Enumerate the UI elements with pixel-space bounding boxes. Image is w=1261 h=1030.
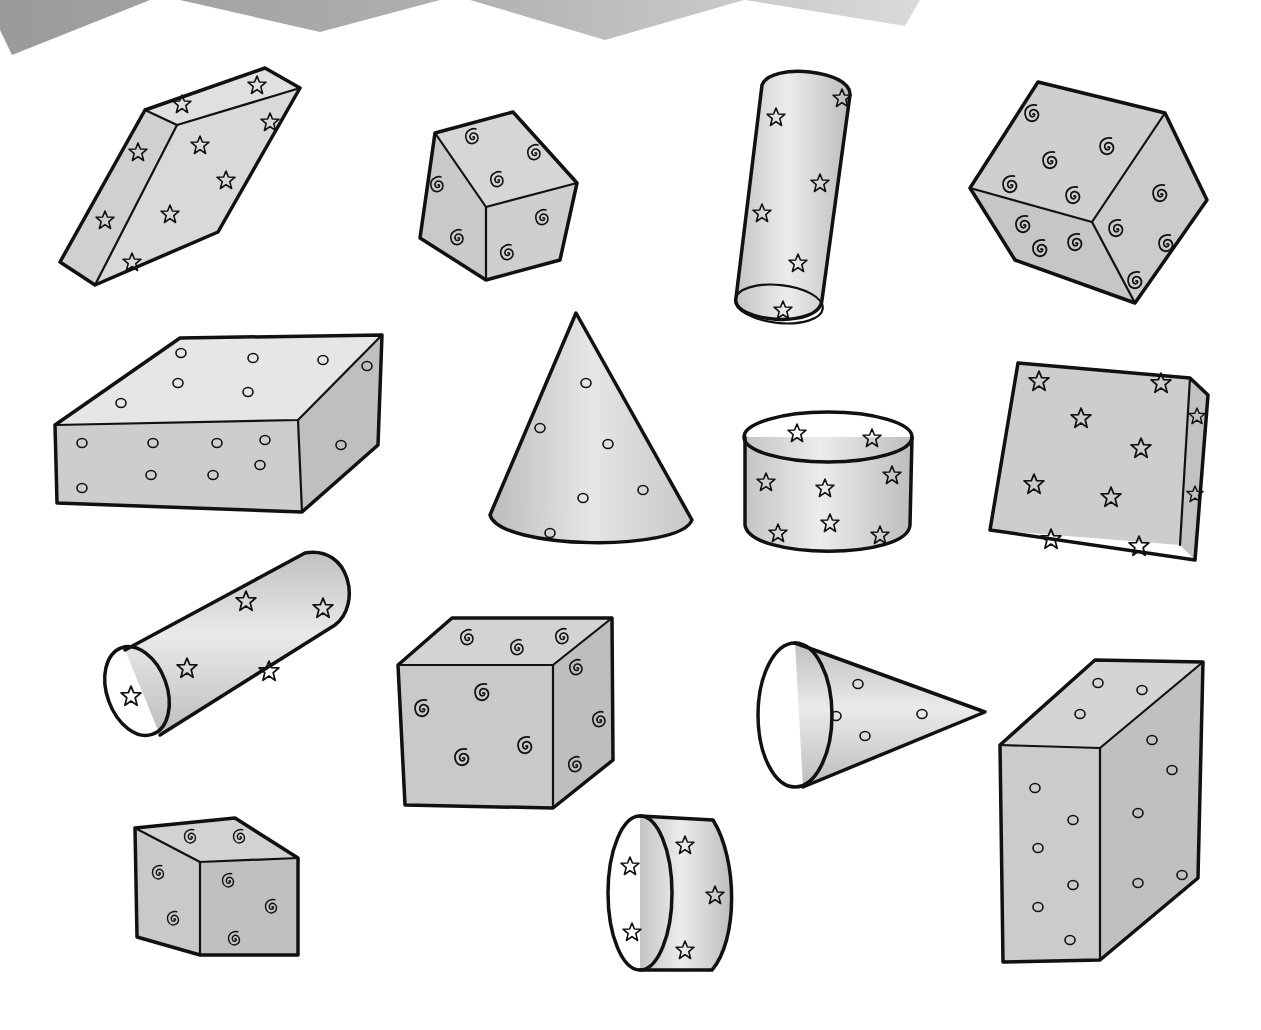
tilted-cube-spirals — [970, 82, 1207, 303]
lying-cylinder-stars — [93, 552, 349, 744]
drum-cylinder-stars — [608, 816, 732, 970]
illustration-canvas — [0, 0, 1261, 1030]
shapes-illustration — [0, 0, 1261, 1030]
large-cube-spirals — [398, 618, 613, 808]
cube-spirals-small — [420, 112, 577, 280]
short-cylinder-stars — [744, 412, 912, 551]
square-prism-stars — [990, 363, 1208, 560]
small-cube-spirals — [135, 818, 298, 955]
slanted-prism-stars — [60, 68, 300, 285]
flat-box-circles — [55, 335, 382, 512]
sideways-cone-circles — [758, 643, 985, 787]
tall-cylinder-stars — [733, 71, 851, 327]
zigzag-banner — [0, 0, 920, 55]
upright-cone-circles — [490, 313, 692, 543]
tall-box-circles — [1000, 660, 1203, 962]
